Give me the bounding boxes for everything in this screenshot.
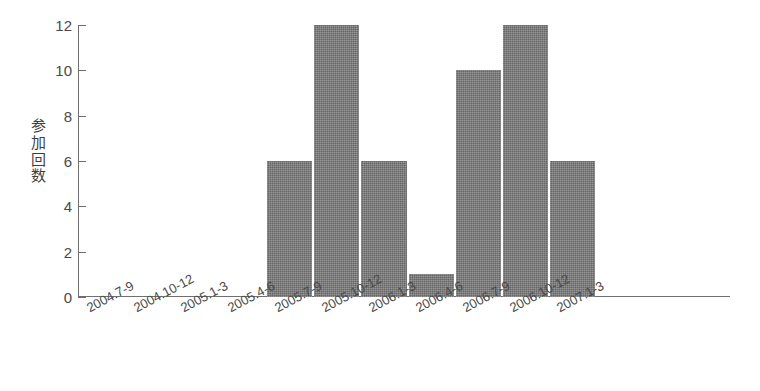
y-axis-title: 参 加 回 数	[27, 118, 49, 185]
bar-slot	[125, 25, 172, 297]
bar-slot	[502, 25, 549, 297]
y-axis-tick	[78, 297, 86, 298]
bar-slot	[455, 25, 502, 297]
y-axis-tick-label-text: 10	[40, 62, 72, 79]
bar-slot	[408, 25, 455, 297]
y-axis-tick-label-text: 0	[40, 289, 72, 306]
y-axis-tick-label-text: 12	[40, 17, 72, 34]
y-axis-title-char-2: 加	[27, 135, 49, 152]
y-axis-tick-label: 10	[40, 62, 72, 78]
bar-slot	[266, 25, 313, 297]
bars-group	[78, 25, 730, 297]
y-axis-tick-label-text: 2	[40, 244, 72, 261]
bar-slot	[360, 25, 407, 297]
bar[interactable]	[503, 25, 548, 297]
bar-slot	[172, 25, 219, 297]
bar[interactable]	[456, 70, 501, 297]
bar-slot	[313, 25, 360, 297]
y-axis-tick-label: 12	[40, 17, 72, 33]
y-axis-tick-label: 6	[40, 153, 72, 169]
y-axis-tick-label: 8	[40, 108, 72, 124]
y-axis-tick-label-text: 6	[40, 153, 72, 170]
bar-chart-figure: 参 加 回 数 024681012 2004.7-92004.10-122005…	[0, 0, 760, 391]
bar-slot	[549, 25, 596, 297]
y-axis-tick-label-text: 8	[40, 108, 72, 125]
bar[interactable]	[267, 161, 312, 297]
y-axis-tick-label: 0	[40, 289, 72, 305]
bar-slot	[78, 25, 125, 297]
y-axis-tick-label: 2	[40, 244, 72, 260]
bar-slot	[219, 25, 266, 297]
y-axis-tick-label: 4	[40, 198, 72, 214]
y-axis-tick-label-text: 4	[40, 198, 72, 215]
y-axis-title-char-4: 数	[27, 168, 49, 185]
bar[interactable]	[314, 25, 359, 297]
